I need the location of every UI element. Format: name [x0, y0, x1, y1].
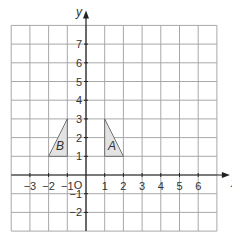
y-tick-label: 1 — [76, 150, 82, 162]
x-tick-label: 4 — [158, 180, 164, 192]
x-tick-label: 2 — [120, 180, 126, 192]
shape-label-b: B — [56, 139, 64, 153]
origin-label: O — [74, 179, 83, 191]
x-tick-label: 1 — [102, 180, 108, 192]
x-tick-label: 3 — [139, 180, 145, 192]
x-axis-label: x — [230, 176, 232, 190]
y-tick-label: 5 — [76, 76, 82, 88]
y-tick-label: 6 — [76, 57, 82, 69]
y-tick-label: 7 — [76, 38, 82, 50]
x-tick-label: −3 — [24, 180, 37, 192]
shape-label-a: A — [107, 139, 116, 153]
y-axis-arrow-icon — [83, 10, 89, 18]
y-tick-label: −2 — [69, 206, 82, 218]
coordinate-grid-figure: ABxy−3−2−1123456−2−11234567O — [0, 0, 232, 238]
y-tick-label: 2 — [76, 132, 82, 144]
y-tick-label: 4 — [76, 94, 82, 106]
x-axis-arrow-icon — [222, 172, 230, 178]
y-axis-label: y — [75, 5, 83, 19]
y-tick-label: 3 — [76, 113, 82, 125]
x-tick-label: 5 — [176, 180, 182, 192]
x-tick-label: −2 — [42, 180, 55, 192]
coordinate-plane: ABxy−3−2−1123456−2−11234567O — [0, 0, 232, 238]
x-tick-label: 6 — [195, 180, 201, 192]
